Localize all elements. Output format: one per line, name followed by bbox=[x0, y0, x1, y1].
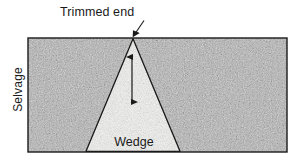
selvage-label: Selvage bbox=[12, 57, 25, 121]
wedge-template-label: Wedge template bbox=[88, 109, 180, 160]
wedge-template-diagram: Trimmed end Selvage Wedge template bbox=[0, 0, 297, 160]
trimmed-end-leader-line bbox=[134, 21, 145, 37]
trimmed-end-label: Trimmed end bbox=[60, 6, 134, 20]
wedge-template-label-line1: Wedge bbox=[88, 136, 180, 150]
